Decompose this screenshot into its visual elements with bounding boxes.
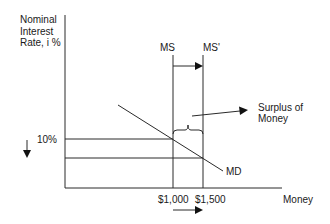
surplus-brace: [173, 125, 203, 134]
y-axis-label: Nominal Interest Rate, i %: [20, 14, 61, 49]
ms-prime-label: MS': [203, 42, 220, 53]
x-axis-label: Money: [283, 194, 313, 205]
money-market-diagram: Nominal Interest Rate, i % MS MS' Surplu…: [0, 0, 330, 224]
surplus-label: Surplus of Money: [258, 102, 303, 124]
surplus-arrow-line: [192, 111, 240, 116]
md-label: MD: [226, 166, 242, 177]
surplus-arrowhead-icon: [239, 107, 248, 116]
quantity-1500-label: $1,500: [195, 194, 226, 205]
rate-down-arrowhead-icon: [23, 150, 31, 158]
quantity-1000-label: $1,000: [158, 194, 189, 205]
supply-shift-arrowhead-icon: [195, 62, 203, 70]
rate-10-label: 10%: [37, 134, 57, 145]
quantity-right-arrowhead-icon: [195, 206, 203, 214]
ms-label: MS: [160, 42, 175, 53]
